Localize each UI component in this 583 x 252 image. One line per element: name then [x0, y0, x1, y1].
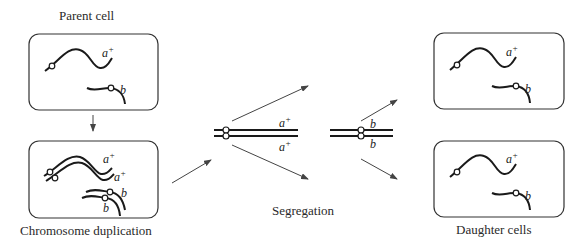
svg-text:b: b	[525, 82, 531, 96]
svg-text:b: b	[525, 189, 531, 203]
svg-text:a+: a+	[506, 43, 518, 59]
daughter-cell-1-box: a+ b	[434, 33, 564, 109]
parent-cell-box: a+ b	[29, 34, 158, 110]
svg-text:a+: a+	[279, 114, 291, 130]
svg-text:b: b	[370, 137, 376, 151]
svg-text:a+: a+	[506, 150, 518, 166]
gene-b: b	[120, 83, 126, 97]
duplication-cell-box: a+ a+ b b	[29, 141, 158, 218]
segregation-diagram: a+ b a+ a+ b b a+ a+ b	[0, 0, 583, 252]
segregating-a-chromosomes: a+ a+	[214, 114, 298, 154]
arrow-up-right-b-icon	[361, 100, 397, 121]
arrow-up-right-icon	[232, 86, 308, 121]
arrow-to-segregation-icon	[172, 160, 211, 183]
daughter-cell-2-box: a+ b	[434, 141, 564, 217]
arrow-down-right-icon	[232, 145, 308, 179]
gene-a-plus-copy2: a+	[114, 168, 126, 184]
svg-text:a+: a+	[279, 138, 291, 154]
gene-a-plus-copy1: a+	[103, 150, 115, 166]
gene-b-copy2: b	[103, 201, 109, 215]
gene-b-copy1: b	[121, 186, 127, 200]
arrow-down-right-b-icon	[361, 159, 397, 179]
gene-a-plus: a+	[102, 44, 114, 60]
segregating-b-chromosomes: b b	[330, 117, 393, 151]
svg-text:b: b	[370, 117, 376, 131]
